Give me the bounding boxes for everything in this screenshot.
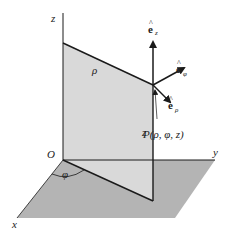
svg-text:e: e — [148, 23, 153, 35]
point-label: P(ρ, φ, z) — [142, 128, 184, 141]
point-leader-arrow — [155, 90, 157, 119]
e-phi-label: ^ e φ — [176, 59, 187, 78]
rho-label: ρ — [91, 64, 97, 76]
e-z-label: ^ e z — [148, 19, 158, 37]
svg-text:φ: φ — [183, 70, 187, 78]
svg-text:ρ: ρ — [174, 106, 179, 114]
cylindrical-coordinates-diagram: z y x O ρ φ z P(ρ, φ, z) ^ e z ^ e φ ^ e… — [0, 0, 232, 236]
origin-label: O — [47, 148, 55, 160]
x-axis-label: x — [11, 218, 17, 230]
e-rho-label: ^ e ρ — [168, 95, 179, 114]
svg-text:e: e — [168, 99, 173, 111]
z-axis-label: z — [50, 12, 56, 24]
y-axis-label: y — [212, 146, 218, 158]
svg-text:e: e — [176, 63, 181, 75]
svg-text:z: z — [154, 29, 158, 37]
phi-label: φ — [62, 168, 68, 180]
